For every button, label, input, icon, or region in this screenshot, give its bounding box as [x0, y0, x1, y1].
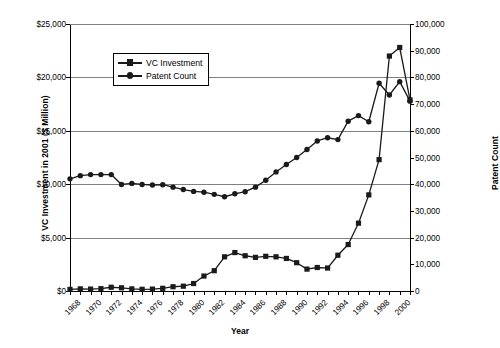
legend-item-vc-investment: VC Investment [118, 56, 202, 69]
legend-marker-square-icon [118, 57, 142, 68]
legend-item-patent-count: Patent Count [118, 69, 202, 82]
legend-label-vc-investment: VC Investment [146, 58, 202, 68]
legend-marker-circle-icon [118, 70, 142, 81]
legend-label-patent-count: Patent Count [146, 71, 196, 81]
chart-legend: VC Investment Patent Count [113, 53, 209, 86]
